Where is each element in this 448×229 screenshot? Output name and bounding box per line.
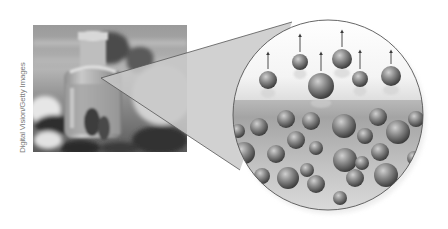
liquid-molecule bbox=[386, 120, 410, 144]
liquid-molecule bbox=[357, 128, 373, 144]
liquid-molecule bbox=[277, 110, 295, 128]
liquid-molecule bbox=[408, 111, 424, 127]
photo-credit: Digital Vision/Getty Images bbox=[18, 53, 28, 153]
liquid-molecule bbox=[394, 190, 406, 202]
liquid-molecule bbox=[267, 145, 285, 163]
liquid-molecule bbox=[287, 131, 305, 149]
evaporation-figure: Digital Vision/Getty Images bbox=[0, 0, 448, 229]
liquid-molecule bbox=[346, 169, 364, 187]
liquid-molecule bbox=[332, 114, 356, 138]
liquid-molecule bbox=[333, 148, 357, 172]
liquid-molecule bbox=[333, 191, 347, 205]
liquid-molecule bbox=[371, 143, 389, 161]
liquid-molecule bbox=[250, 118, 268, 136]
liquid-molecule bbox=[307, 175, 325, 193]
liquid-molecule bbox=[300, 163, 314, 177]
figure-canvas bbox=[0, 0, 448, 229]
liquid-molecule bbox=[277, 167, 299, 189]
liquid-molecule bbox=[254, 168, 270, 184]
liquid-molecule bbox=[256, 194, 268, 206]
liquid-molecule bbox=[355, 156, 369, 170]
liquid-molecule bbox=[302, 112, 320, 130]
liquid-surface bbox=[230, 100, 430, 215]
liquid-molecule bbox=[369, 108, 387, 126]
liquid-molecule bbox=[309, 141, 323, 155]
